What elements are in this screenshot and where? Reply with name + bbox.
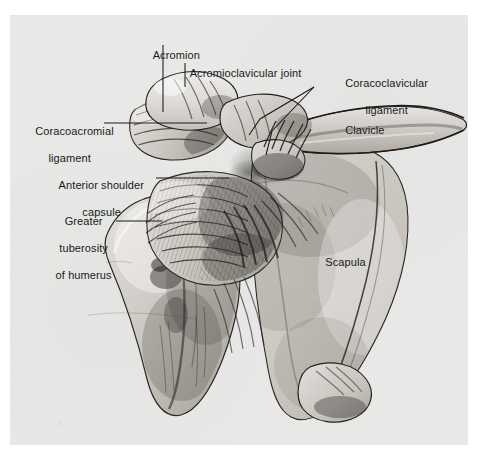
label-greater-tuberosity-of-humerus: Greater tuberosity of humerus: [26, 201, 116, 296]
label-layer: Acromion Acromioclavicular joint Coracoc…: [10, 15, 468, 445]
anatomical-illustration-plate: Acromion Acromioclavicular joint Coracoc…: [10, 15, 468, 445]
label-clavicle: Clavicle: [320, 110, 400, 151]
label-scapula: Scapula: [300, 242, 380, 283]
figure-root: Acromion Acromioclavicular joint Coracoc…: [0, 0, 478, 459]
